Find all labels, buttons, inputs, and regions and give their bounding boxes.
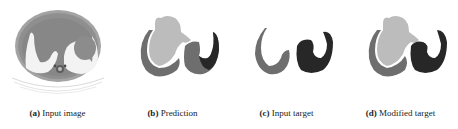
segment-dark <box>411 30 448 73</box>
vessel <box>54 65 57 68</box>
caption-modified-target: (d) Modified target <box>343 108 458 118</box>
panel-input-image: (a) Input image <box>0 0 115 129</box>
panel-modified-target: (d) Modified target <box>343 0 458 129</box>
caption-input-image: (a) Input image <box>0 108 115 118</box>
panel-label: (a) <box>30 108 41 118</box>
caption-prediction: (b) Prediction <box>115 108 230 118</box>
prediction-mask <box>115 0 230 100</box>
panel-input-target: (c) Input target <box>229 0 344 129</box>
panel-label: (d) <box>366 108 377 118</box>
modified-target-mask <box>343 0 458 100</box>
vessel <box>64 65 67 68</box>
panel-title: Prediction <box>161 108 198 118</box>
caption-input-target: (c) Input target <box>229 108 344 118</box>
segment-dark <box>199 32 219 70</box>
panel-title: Input image <box>42 108 85 118</box>
segment-dark <box>297 32 334 73</box>
input-target-mask <box>229 0 344 100</box>
panel-prediction: (b) Prediction <box>115 0 230 129</box>
spine-core <box>58 67 62 71</box>
panel-title: Input target <box>272 108 314 118</box>
heart <box>74 36 96 60</box>
panel-label: (b) <box>147 108 158 118</box>
segment-mid-crescent <box>255 28 290 74</box>
panel-title: Modified target <box>379 108 435 118</box>
ct-scan-image <box>0 0 115 100</box>
panel-label: (c) <box>260 108 270 118</box>
